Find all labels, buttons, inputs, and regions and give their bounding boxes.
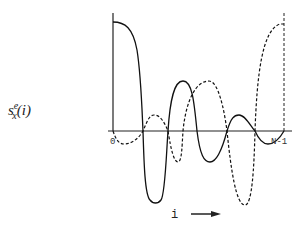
dashed-series-line [113, 24, 284, 205]
x-axis-label: i [171, 208, 221, 222]
right-arrow-icon [191, 208, 221, 222]
x-tick-n-minus-1: N-1 [271, 137, 287, 147]
chart-plot [0, 0, 301, 237]
solid-series-line [113, 22, 284, 203]
x-tick-0: 0 [110, 137, 115, 147]
